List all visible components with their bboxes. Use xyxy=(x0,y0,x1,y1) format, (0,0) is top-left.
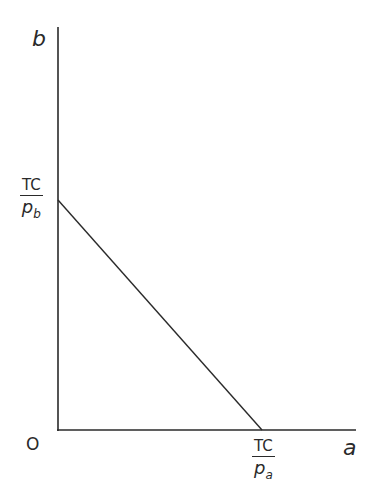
x-intercept-label: TC pa xyxy=(252,439,275,481)
x-intercept-numerator: TC xyxy=(252,439,275,457)
origin-label: O xyxy=(26,436,39,453)
y-intercept-label: TC pb xyxy=(20,178,43,220)
x-axis-label: a xyxy=(343,437,356,459)
x-intercept-denominator: pa xyxy=(252,457,275,481)
y-intercept-denominator: pb xyxy=(20,196,43,220)
budget-diagram xyxy=(0,0,388,496)
y-axis-label: b xyxy=(32,28,46,50)
budget-line xyxy=(58,200,262,430)
x-intercept-subscript: a xyxy=(265,468,272,482)
y-intercept-p: p xyxy=(22,196,33,217)
x-intercept-p: p xyxy=(254,457,265,478)
y-intercept-numerator: TC xyxy=(20,178,43,196)
y-intercept-subscript: b xyxy=(33,207,41,221)
